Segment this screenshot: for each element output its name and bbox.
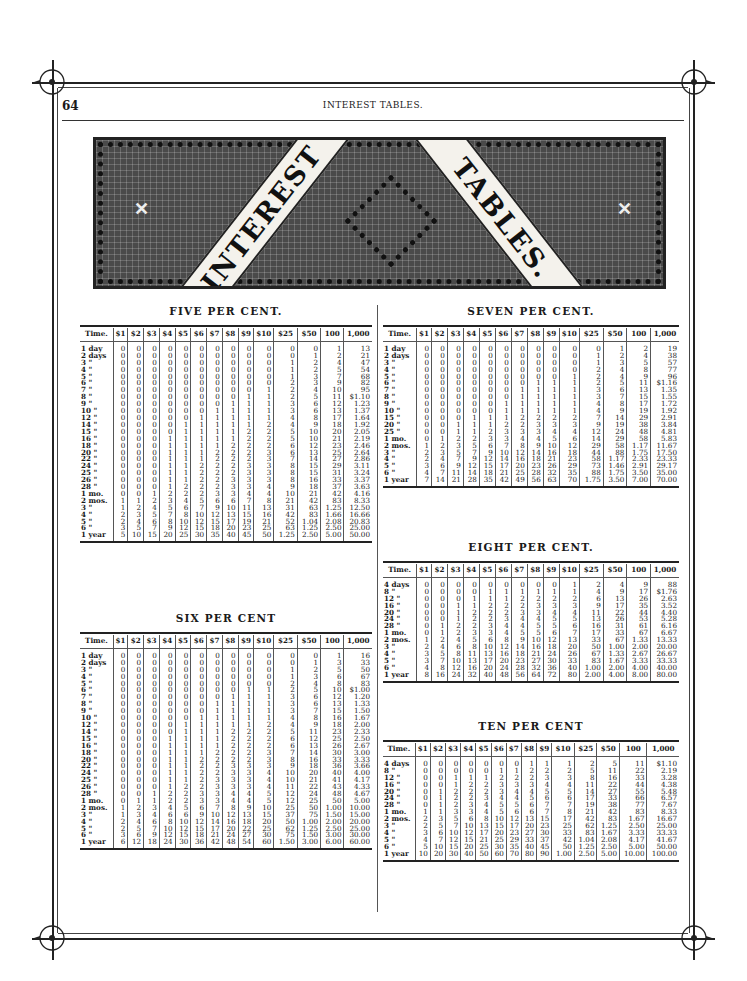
value-cell: 70 — [559, 477, 579, 486]
table-top-rule — [383, 740, 679, 742]
column-header: Time. — [80, 635, 113, 648]
column-header: $2 — [128, 328, 144, 341]
value-cell: 8 — [417, 672, 432, 681]
value-cell: 0 — [175, 648, 191, 659]
value-cell: 4.00 — [603, 672, 627, 681]
star-ornament-icon: ✕ — [134, 198, 149, 219]
table-row: 1 year71421283542495663701.753.507.0070.… — [383, 477, 679, 486]
value-cell: 0 — [175, 353, 191, 360]
header-rule — [62, 120, 684, 121]
table-row: 1 year1020304050607080901.002.505.0010.0… — [383, 851, 679, 860]
table-top-rule — [383, 561, 679, 563]
column-header: 100 — [627, 564, 651, 577]
value-cell: 2 — [238, 736, 254, 743]
table-bottom-rule — [383, 681, 679, 683]
frame-left-inner-rule — [57, 88, 58, 933]
value-cell: 80 — [559, 672, 579, 681]
column-divider — [377, 305, 378, 912]
value-cell: 40 — [222, 532, 238, 541]
value-cell: 70 — [506, 851, 521, 860]
value-cell: 1 — [175, 757, 191, 764]
value-cell: 4 — [238, 798, 254, 805]
column-header: $6 — [495, 328, 511, 341]
value-cell: 6.00 — [321, 839, 344, 848]
value-cell: 25 — [175, 532, 191, 541]
column-header: $50 — [603, 564, 627, 577]
value-cell: 3 — [238, 477, 254, 484]
value-cell: 2 — [238, 743, 254, 750]
column-header: $1 — [113, 328, 127, 341]
column-header: $10 — [552, 743, 575, 756]
column-header: $50 — [603, 328, 627, 341]
time-cell: 1 year — [383, 851, 415, 860]
corner-ornament-icon — [34, 920, 70, 956]
value-cell: 0 — [175, 660, 191, 667]
value-cell: 0 — [238, 341, 254, 352]
value-cell: 50 — [254, 532, 274, 541]
column-header: $8 — [222, 635, 238, 648]
column-header: $5 — [175, 328, 191, 341]
value-cell: 21 — [447, 477, 463, 486]
value-cell: 0 — [175, 667, 191, 674]
time-cell: 1 year — [80, 839, 113, 848]
value-cell: 0 — [175, 674, 191, 681]
value-cell: 60 — [491, 851, 506, 860]
interest-table: Time.$1$2$3$4$5$6$7$8$9$10$25$501001,000… — [383, 328, 679, 486]
value-cell: 1 — [175, 443, 191, 450]
value-cell: 20 — [430, 851, 445, 860]
column-header: $9 — [238, 328, 254, 341]
value-cell: 12 — [128, 839, 144, 848]
column-header: 100 — [620, 743, 647, 756]
table-title: SEVEN PER CENT. — [383, 305, 679, 317]
column-header: $25 — [580, 328, 604, 341]
column-header: $1 — [417, 328, 432, 341]
table-header-row: Time.$1$2$3$4$5$6$7$8$9$10$25$501001,000 — [80, 635, 372, 648]
column-header: $8 — [521, 743, 536, 756]
column-header: Time. — [383, 743, 415, 756]
value-cell: 0 — [238, 353, 254, 360]
value-cell: 2 — [238, 443, 254, 450]
value-cell: 1 — [238, 687, 254, 694]
table-header-row: Time.$1$2$3$4$5$6$7$8$9$10$25$501001,000 — [80, 328, 372, 341]
value-cell: 1 — [238, 394, 254, 401]
value-cell: 0 — [238, 648, 254, 659]
value-cell: 60.00 — [344, 839, 372, 848]
value-cell: 0 — [238, 660, 254, 667]
value-cell: 1 — [175, 777, 191, 784]
value-cell: 3 — [238, 784, 254, 791]
value-cell: 1 — [175, 436, 191, 443]
column-header: $7 — [506, 743, 521, 756]
value-cell: 10.00 — [620, 851, 647, 860]
value-cell: 0 — [238, 380, 254, 387]
value-cell: 48 — [222, 839, 238, 848]
value-cell: 32 — [463, 672, 479, 681]
interest-table: Time.$1$2$3$4$5$6$7$8$9$10$25$501001,000… — [80, 328, 372, 541]
value-cell: 0 — [238, 667, 254, 674]
table-bottom-rule — [383, 860, 679, 862]
table-row: 1 year81624324048566472802.004.008.0080.… — [383, 672, 679, 681]
value-cell: 2 — [238, 436, 254, 443]
value-cell: 100.00 — [647, 851, 679, 860]
column-header: $25 — [274, 635, 297, 648]
value-cell: 0 — [175, 401, 191, 408]
value-cell: 1 — [238, 715, 254, 722]
column-header: 100 — [321, 328, 344, 341]
value-cell: 7.00 — [627, 477, 651, 486]
value-cell: 1 — [175, 477, 191, 484]
value-cell: 40 — [461, 851, 476, 860]
column-header: $8 — [527, 564, 543, 577]
value-cell: 2 — [238, 456, 254, 463]
column-header: $6 — [191, 328, 207, 341]
value-cell: 0 — [175, 360, 191, 367]
value-cell: 0 — [175, 681, 191, 688]
table-bottom-rule — [383, 486, 679, 488]
value-cell: 2.00 — [580, 672, 604, 681]
table-title: EIGHT PER CENT. — [383, 541, 679, 553]
value-cell: 0 — [175, 394, 191, 401]
value-cell: 30 — [175, 839, 191, 848]
column-header: Time. — [383, 328, 417, 341]
column-header: $50 — [597, 743, 620, 756]
column-header: $4 — [463, 328, 479, 341]
table-title: SIX PER CENT — [80, 612, 372, 624]
table-header-row: Time.$1$2$3$4$5$6$7$8$9$10$25$501001,000 — [383, 743, 679, 756]
